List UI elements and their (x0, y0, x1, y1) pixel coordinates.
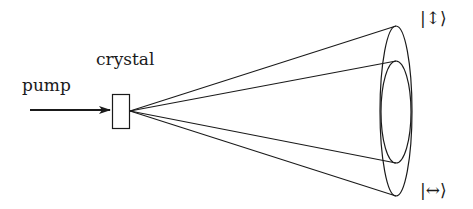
inner-cone-bottom-line (130, 111, 396, 163)
crystal-box (113, 95, 130, 129)
outer-cone-bottom-line (130, 111, 396, 196)
inner-cone-ellipse (381, 61, 411, 163)
outer-cone-ellipse (380, 26, 412, 196)
vertical-polarization-state-label: |↕⟩ (420, 8, 447, 28)
spdc-diagram: pump crystal |↕⟩ |↔⟩ (0, 0, 473, 209)
crystal-label: crystal (96, 49, 154, 69)
horizontal-polarization-state-label: |↔⟩ (420, 180, 447, 200)
pump-label: pump (22, 75, 71, 95)
